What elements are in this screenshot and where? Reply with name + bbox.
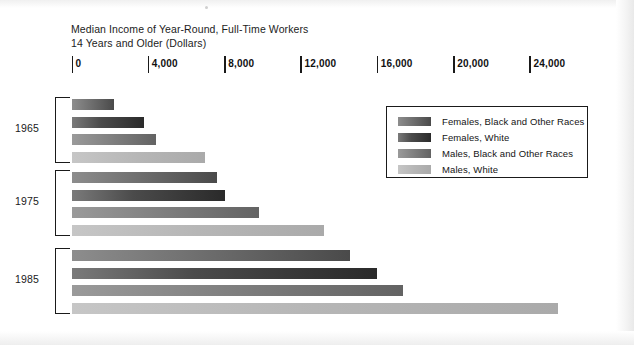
chart-page: Median Income of Year-Round, Full-Time W…	[0, 0, 634, 345]
year-label: 1975	[15, 195, 53, 207]
year-bracket	[55, 170, 70, 236]
legend-item: Males, White	[398, 164, 498, 175]
legend-item: Females, Black and Other Races	[398, 116, 584, 127]
axis-tick	[72, 56, 74, 73]
chart-legend: Females, Black and Other RacesFemales, W…	[386, 106, 588, 178]
year-label: 1965	[15, 122, 53, 134]
year-label: 1985	[15, 273, 53, 285]
legend-label: Males, Black and Other Races	[442, 148, 573, 159]
year-bracket	[55, 248, 70, 314]
legend-label: Females, Black and Other Races	[442, 116, 584, 127]
bar	[72, 268, 377, 279]
legend-swatch	[398, 133, 431, 142]
legend-swatch	[398, 117, 431, 126]
bar	[72, 99, 115, 110]
bar	[72, 172, 218, 183]
legend-swatch	[398, 149, 431, 158]
legend-label: Females, White	[442, 132, 509, 143]
legend-label: Males, White	[442, 164, 498, 175]
bar	[72, 207, 260, 218]
axis-tick-label: 8,000	[228, 58, 254, 69]
bar	[72, 117, 145, 128]
axis-tick	[148, 56, 150, 73]
bar	[72, 134, 157, 145]
legend-item: Females, White	[398, 132, 509, 143]
chart-title-line-2: 14 Years and Older (Dollars)	[71, 36, 491, 50]
page-edge-right	[616, 0, 634, 345]
bar	[72, 152, 205, 163]
chart-title: Median Income of Year-Round, Full-Time W…	[71, 22, 491, 50]
axis-tick-label: 4,000	[152, 58, 178, 69]
axis-tick	[377, 56, 379, 73]
bar	[72, 225, 325, 236]
chart-title-line-1: Median Income of Year-Round, Full-Time W…	[71, 22, 491, 36]
page-edge-bottom	[0, 331, 634, 345]
bar	[72, 250, 351, 261]
axis-tick-label: 12,000	[304, 58, 336, 69]
axis-tick-label: 16,000	[381, 58, 413, 69]
axis-tick	[300, 56, 302, 73]
axis-tick	[224, 56, 226, 73]
axis-tick-label: 20,000	[457, 58, 489, 69]
legend-item: Males, Black and Other Races	[398, 148, 573, 159]
year-bracket	[55, 97, 70, 163]
axis-tick-label: 0	[76, 58, 82, 69]
scan-speck	[205, 6, 208, 9]
page-edge-top	[0, 0, 634, 8]
axis-tick	[453, 56, 455, 73]
bar	[72, 285, 403, 296]
legend-swatch	[398, 165, 431, 174]
axis-tick	[529, 56, 531, 73]
bar	[72, 190, 225, 201]
axis-tick-label: 24,000	[533, 58, 565, 69]
bar	[72, 303, 559, 314]
